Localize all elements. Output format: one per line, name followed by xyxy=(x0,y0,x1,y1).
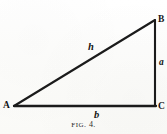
vertex-label-a: A xyxy=(3,101,10,111)
vertex-label-c: C xyxy=(158,102,165,112)
side-label-base: b xyxy=(94,110,99,121)
figure-caption-suffix: . 4. xyxy=(84,120,96,129)
side-label-hypotenuse: h xyxy=(88,42,94,53)
figure-container: A B C h a b FIG. 4. xyxy=(0,0,167,134)
side-label-vertical: a xyxy=(159,58,164,68)
hypotenuse-line xyxy=(14,20,155,106)
figure-caption-prefix: FIG xyxy=(71,121,84,129)
vertex-label-b: B xyxy=(158,15,164,25)
right-triangle-drawing xyxy=(0,0,167,134)
figure-caption: FIG. 4. xyxy=(0,120,167,129)
